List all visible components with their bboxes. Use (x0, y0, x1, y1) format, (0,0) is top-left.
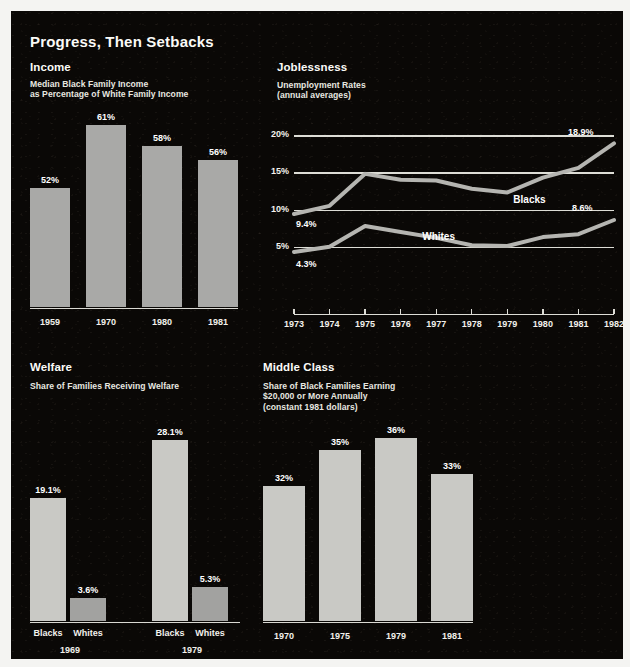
bar-label-welfare-1: 3.6% (66, 585, 110, 595)
bar-label-middleclass-1975: 35% (319, 437, 361, 447)
bar-middleclass-1981 (431, 474, 473, 621)
bar-income-1981 (198, 160, 238, 307)
section-subheading-welfare: Share of Families Receiving Welfare (30, 381, 179, 391)
bar-middleclass-1979 (375, 438, 417, 621)
bar-label-income-1959: 52% (30, 175, 70, 185)
xaxis-label-middleclass-1970: 1970 (263, 631, 305, 641)
chart-middleclass-baseline (263, 622, 473, 623)
section-heading-income: Income (30, 61, 71, 73)
point-label-blacks-end: 18.9% (568, 127, 594, 137)
xaxis-group-label-welfare-1979: 1979 (147, 645, 237, 655)
series-label-whites: Whites (422, 231, 455, 242)
line-series-blacks (294, 143, 614, 214)
bar-label-welfare-2: 28.1% (148, 427, 192, 437)
chart-income-baseline (30, 308, 238, 309)
bar-welfare-3 (192, 587, 228, 621)
bar-welfare-1 (70, 598, 106, 621)
point-label-blacks-start: 9.4% (296, 219, 317, 229)
point-label-whites-end: 8.6% (572, 203, 593, 213)
chart-income: 52%61%58%56% (30, 117, 238, 307)
chart-middleclass: 32%35%36%33% (263, 431, 473, 621)
income-sub-line-1: Median Black Family Income (30, 79, 188, 89)
section-subheading-income: Median Black Family Income as Percentage… (30, 79, 188, 100)
bar-label-welfare-0: 19.1% (26, 485, 70, 495)
mc-sub-line-2: $20,000 or More Annually (263, 391, 395, 401)
jobless-sub-line-1: Unemployment Rates (277, 80, 366, 90)
xaxis-label-middleclass-1975: 1975 (319, 631, 361, 641)
income-sub-line-2: as Percentage of White Family Income (30, 89, 188, 99)
xaxis-label-middleclass-1979: 1979 (375, 631, 417, 641)
bar-label-middleclass-1970: 32% (263, 473, 305, 483)
section-heading-joblessness: Joblessness (277, 61, 347, 73)
jobless-sub-line-2: (annual averages) (277, 90, 366, 100)
bar-label-income-1970: 61% (86, 112, 126, 122)
xaxis-label-income-1981: 1981 (198, 317, 238, 327)
series-label-blacks: Blacks (513, 194, 545, 205)
bar-welfare-2 (152, 440, 188, 621)
bar-income-1970 (86, 125, 126, 307)
xaxis-label-middleclass-1981: 1981 (431, 631, 473, 641)
welfare-sub-line-1: Share of Families Receiving Welfare (30, 381, 179, 391)
bar-label-welfare-3: 5.3% (188, 574, 232, 584)
bar-income-1980 (142, 146, 182, 307)
chart-joblessness: 5%10%15%20%19731974197519761977197819791… (256, 111, 621, 326)
section-subheading-joblessness: Unemployment Rates (annual averages) (277, 80, 366, 101)
bar-label-middleclass-1981: 33% (431, 461, 473, 471)
section-subheading-middleclass: Share of Black Families Earning $20,000 … (263, 381, 395, 412)
xaxis-label-welfare-1-Whites: Whites (65, 628, 111, 638)
mc-sub-line-3: (constant 1981 dollars) (263, 402, 395, 412)
poster-panel: Progress, Then Setbacks Income Median Bl… (11, 11, 623, 659)
xaxis-group-label-welfare-1969: 1969 (25, 645, 115, 655)
bar-middleclass-1975 (319, 450, 361, 621)
xaxis-label-income-1959: 1959 (30, 317, 70, 327)
section-heading-middleclass: Middle Class (263, 361, 335, 373)
bar-income-1959 (30, 188, 70, 307)
point-label-whites-start: 4.3% (296, 259, 317, 269)
chart-welfare: 19.1%3.6%28.1%5.3% (30, 431, 240, 621)
xaxis-label-welfare-3-Whites: Whites (187, 628, 233, 638)
page-title: Progress, Then Setbacks (30, 33, 214, 50)
xaxis-label-income-1980: 1980 (142, 317, 182, 327)
bar-welfare-0 (30, 498, 66, 621)
bar-label-income-1980: 58% (142, 133, 182, 143)
xaxis-label-income-1970: 1970 (86, 317, 126, 327)
infographic-page: Progress, Then Setbacks Income Median Bl… (0, 0, 630, 667)
section-heading-welfare: Welfare (30, 361, 72, 373)
mc-sub-line-1: Share of Black Families Earning (263, 381, 395, 391)
chart-welfare-baseline (30, 622, 240, 623)
bar-label-income-1981: 56% (198, 147, 238, 157)
bar-label-middleclass-1979: 36% (375, 425, 417, 435)
bar-middleclass-1970 (263, 486, 305, 621)
